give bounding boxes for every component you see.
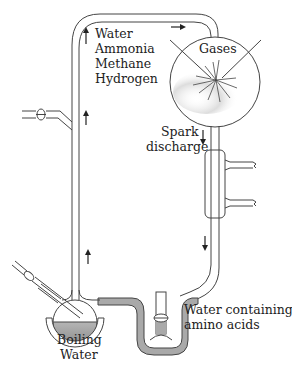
label-spark: Spark [161,124,199,139]
label-boiling: Boiling [57,332,102,347]
label-discharge: discharge [146,139,208,154]
label-water-containing: Water containing [184,302,292,317]
label-ammonia: Ammonia [94,41,155,56]
label-water: Water [95,26,133,41]
label-hydrogen: Hydrogen [95,71,158,86]
arrow-up-icon [83,110,89,125]
arrow-down-icon [202,236,208,251]
label-boiling-water: Water [60,347,98,362]
miller-urey-diagram: Water Ammonia Methane Hydrogen Gases Spa… [0,0,292,369]
label-gases: Gases [199,41,237,56]
label-amino-acids: amino acids [184,317,260,332]
condenser [205,150,256,218]
side-inlet-valve [22,109,72,130]
arrow-up-icon [85,249,91,264]
u-trap [98,292,198,355]
label-methane: Methane [95,56,151,71]
arrow-right-icon [171,24,186,30]
